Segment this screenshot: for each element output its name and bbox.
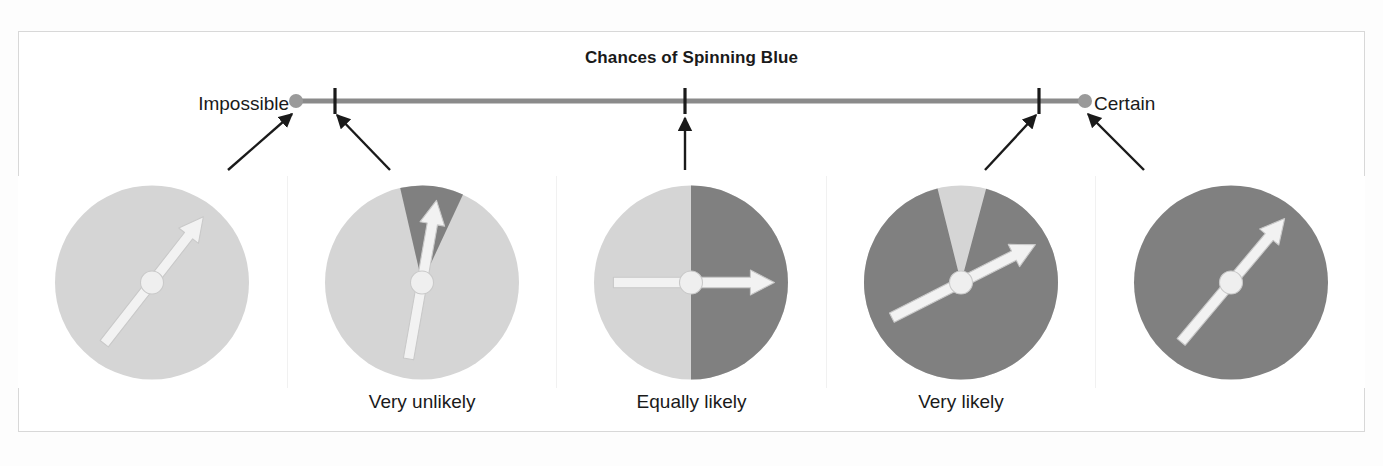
spinner-cell-5: [1096, 176, 1365, 388]
spinner-hub: [410, 271, 433, 294]
probability-scale-figure: Chances of Spinning Blue Impossible Cert…: [0, 0, 1383, 466]
spinner-row: [18, 176, 1365, 388]
spinner-label-4: Very likely: [826, 392, 1095, 424]
spinner-certain[interactable]: [1128, 180, 1333, 385]
spinner-hub: [141, 271, 164, 294]
page-title: Chances of Spinning Blue: [0, 48, 1383, 68]
spinner-certain-graphic: [1128, 180, 1333, 385]
spinner-cell-2: [288, 176, 558, 388]
spinner-very-unlikely-graphic: [319, 180, 524, 385]
spinner-very-likely[interactable]: [859, 180, 1064, 385]
spinner-impossible-graphic: [50, 180, 255, 385]
spinner-hub: [680, 271, 703, 294]
spinner-cell-1: [18, 176, 288, 388]
spinner-very-unlikely[interactable]: [319, 180, 524, 385]
spinner-label-1: [18, 392, 287, 424]
spinner-equally-likely-graphic: [589, 180, 794, 385]
spinner-label-5: [1096, 392, 1365, 424]
spinner-hub: [950, 271, 973, 294]
spinner-label-3: Equally likely: [557, 392, 826, 424]
scale-label-certain: Certain: [1094, 94, 1155, 113]
spinner-impossible[interactable]: [50, 180, 255, 385]
spinner-cell-4: [827, 176, 1097, 388]
scale-label-impossible: Impossible: [198, 94, 289, 113]
spinner-very-likely-graphic: [859, 180, 1064, 385]
spinner-label-2: Very unlikely: [287, 392, 556, 424]
spinner-hub: [1219, 271, 1242, 294]
spinner-label-row: Very unlikelyEqually likelyVery likely: [18, 392, 1365, 424]
spinner-cell-3: [557, 176, 827, 388]
spinner-equally-likely[interactable]: [589, 180, 794, 385]
